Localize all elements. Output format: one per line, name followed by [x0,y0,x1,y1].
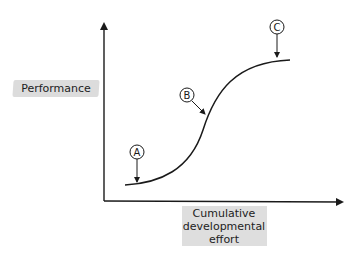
marker-a: A [130,145,144,182]
marker-b-label: B [184,90,191,101]
marker-a-label: A [134,147,141,158]
marker-c-label: C [274,22,281,33]
marker-c: C [270,20,284,57]
y-axis-label: Performance [13,82,99,95]
x-axis-label: Cumulative developmental effort [176,207,272,246]
performance-curve [125,60,290,185]
marker-b: B [180,88,205,114]
x-axis [104,201,342,202]
